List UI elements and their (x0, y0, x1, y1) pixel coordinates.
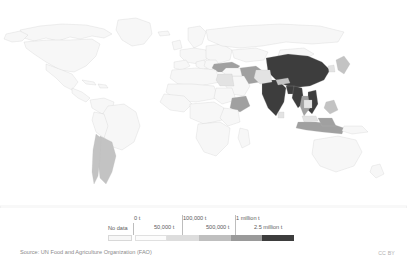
country-east-africa[interactable] (220, 108, 240, 126)
country-india[interactable] (262, 80, 286, 116)
country-australia[interactable] (312, 136, 362, 172)
country-japan[interactable] (336, 56, 350, 74)
country-new-zealand[interactable] (370, 164, 384, 178)
legend-tick-100000t: 100,000 t (183, 215, 206, 221)
country-indonesia[interactable] (296, 122, 344, 134)
legend-tick-2point5million-t: 2.5 million t (254, 224, 282, 230)
legend-swatch-no-data[interactable] (108, 235, 132, 241)
country-antarctica-edge (0, 206, 407, 208)
license-note[interactable]: CC BY (378, 249, 395, 257)
country-malaysia[interactable] (302, 116, 318, 122)
country-united-states[interactable] (24, 39, 100, 72)
legend-swatch-100000-500000[interactable] (199, 235, 231, 241)
country-canada[interactable] (20, 24, 112, 41)
world-map-svg (0, 8, 407, 208)
country-morocco-algeria-libya[interactable] (170, 68, 220, 86)
legend-swatch-50000-100000[interactable] (167, 235, 199, 241)
legend-swatch-500000-1million[interactable] (231, 235, 262, 241)
legend-swatch-0-50000[interactable] (135, 235, 167, 241)
legend-tick-line-0 (133, 223, 134, 235)
country-uk-ireland[interactable] (172, 40, 182, 50)
legend-no-data-label: No data (108, 224, 128, 232)
source-note: Source: UN Food and Agriculture Organiza… (20, 248, 152, 256)
country-egypt[interactable] (216, 74, 234, 86)
country-greenland[interactable] (116, 18, 152, 46)
country-caribbean[interactable] (98, 84, 108, 88)
country-scandinavia[interactable] (188, 26, 206, 48)
legend-labels-lower-row: 50,000 t 500,000 t 2.5 million t (108, 224, 294, 234)
country-central-america[interactable] (72, 88, 90, 102)
legend-tick-0t: 0 t (134, 215, 140, 221)
map-legend: 0 t 100,000 t 1 million t 50,000 t 500,0… (108, 215, 294, 245)
country-kazakhstan[interactable] (232, 48, 268, 62)
country-southern-africa[interactable] (196, 122, 230, 156)
legend-labels-upper-row: 0 t 100,000 t 1 million t (108, 215, 294, 224)
country-central-africa[interactable] (190, 102, 224, 124)
choropleth-map-figure: 0 t 100,000 t 1 million t 50,000 t 500,0… (0, 0, 407, 265)
country-south-korea[interactable] (328, 65, 335, 72)
country-iceland[interactable] (158, 31, 170, 36)
country-chile[interactable] (92, 134, 101, 184)
legend-tick-line-100k (182, 215, 183, 235)
world-map[interactable] (0, 8, 407, 208)
country-madagascar[interactable] (238, 128, 250, 148)
legend-tick-50000t: 50,000 t (154, 224, 174, 230)
country-sri-lanka[interactable] (278, 112, 284, 118)
country-philippines[interactable] (324, 100, 338, 114)
legend-tick-line-1m (235, 215, 236, 235)
legend-tick-500000t: 500,000 t (206, 224, 229, 230)
country-cambodia-laos[interactable] (304, 100, 312, 108)
country-new-guinea[interactable] (342, 126, 368, 134)
legend-tick-1million-t: 1 million t (236, 215, 260, 221)
legend-swatch-1million-2point5million[interactable] (262, 235, 294, 241)
legend-color-bar[interactable] (108, 235, 294, 241)
country-cuba[interactable] (82, 80, 96, 85)
country-russia[interactable] (206, 24, 344, 48)
